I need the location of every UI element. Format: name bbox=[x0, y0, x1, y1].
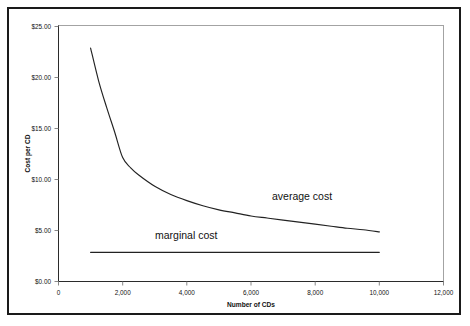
average-cost-label: average cost bbox=[272, 190, 332, 202]
y-tick-label: $20.00 bbox=[31, 74, 51, 81]
plot-panel-border bbox=[59, 26, 444, 282]
chart-figure: $0.00 $5.00 $10.00 $15.00 $20.00 $25.00 … bbox=[0, 0, 470, 326]
x-tick-labels: 0 2,000 4,000 6,000 8,000 10,000 12,000 bbox=[57, 289, 454, 296]
y-tick-label: $5.00 bbox=[35, 227, 51, 234]
x-tick-label: 2,000 bbox=[115, 289, 131, 296]
marginal-cost-label: marginal cost bbox=[155, 229, 218, 241]
y-tick-marks bbox=[55, 27, 59, 282]
y-tick-label: $25.00 bbox=[31, 23, 51, 30]
x-tick-label: 8,000 bbox=[307, 289, 323, 296]
y-tick-labels: $0.00 $5.00 $10.00 $15.00 $20.00 $25.00 bbox=[31, 23, 51, 285]
y-tick-label: $0.00 bbox=[35, 278, 51, 285]
y-tick-label: $10.00 bbox=[31, 176, 51, 183]
x-tick-label: 0 bbox=[57, 289, 61, 296]
x-tick-label: 10,000 bbox=[370, 289, 390, 296]
chart-plot-area: $0.00 $5.00 $10.00 $15.00 $20.00 $25.00 … bbox=[0, 0, 470, 326]
y-tick-label: $15.00 bbox=[31, 125, 51, 132]
x-tick-label: 12,000 bbox=[434, 289, 454, 296]
average-cost-curve bbox=[91, 48, 380, 232]
x-tick-label: 4,000 bbox=[179, 289, 195, 296]
x-axis-title: Number of CDs bbox=[227, 301, 275, 308]
x-tick-marks bbox=[59, 282, 444, 286]
y-axis-title: Cost per CD bbox=[24, 134, 32, 172]
x-tick-label: 6,000 bbox=[243, 289, 259, 296]
